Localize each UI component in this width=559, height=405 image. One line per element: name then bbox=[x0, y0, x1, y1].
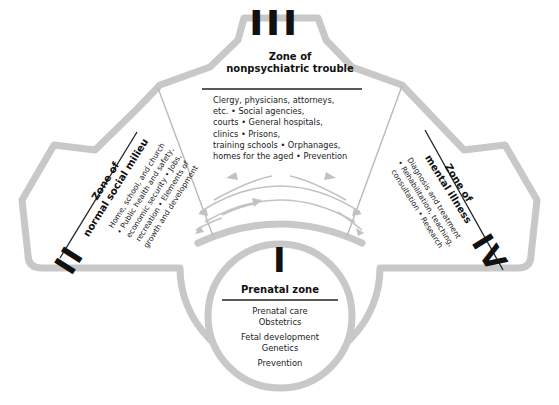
zone3-title-line1: Zone of bbox=[210, 51, 370, 63]
zone3-title-line2: nonpsychiatric trouble bbox=[210, 63, 370, 75]
zone1-title: Prenatal zone bbox=[230, 284, 330, 296]
zone3-body-line: etc. • Social agencies, bbox=[213, 106, 373, 117]
zone3-title: Zone of nonpsychiatric trouble bbox=[210, 51, 370, 75]
zone1-numeral: I bbox=[273, 243, 288, 277]
zone3-body-line: Clergy, physicians, attorneys, bbox=[213, 95, 373, 106]
zone3-numeral: III bbox=[249, 6, 300, 40]
zone1-item: Genetics bbox=[210, 343, 350, 354]
zone2-numeral: II bbox=[50, 241, 89, 279]
zone3-body-line: courts • General hospitals, bbox=[213, 117, 373, 128]
zone1-item: Obstetrics bbox=[210, 317, 350, 328]
zone1-item: Prenatal care bbox=[210, 306, 350, 317]
zone1-item: Prevention bbox=[210, 358, 350, 369]
zone1-item: Fetal development bbox=[210, 332, 350, 343]
